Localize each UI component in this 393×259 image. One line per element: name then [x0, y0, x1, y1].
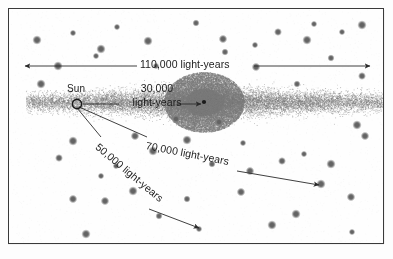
figure-frame: Sun 110,000 light-years 30,000 light-yea…: [8, 8, 384, 244]
sun-to-center-label-line1: 30,000: [121, 83, 193, 94]
diameter-label: 110,000 light-years: [140, 59, 229, 70]
sun-label: Sun: [67, 84, 85, 95]
galaxy-star-field-canvas: [9, 9, 383, 243]
sun-to-center-label-line2: light-years: [121, 97, 193, 108]
galaxy-diagram-figure: Sun 110,000 light-years 30,000 light-yea…: [0, 0, 393, 259]
